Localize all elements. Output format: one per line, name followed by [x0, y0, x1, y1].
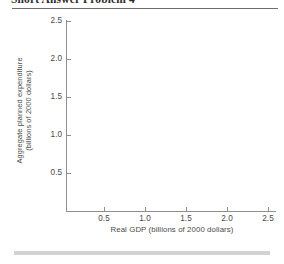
x-axis-tick-mark: [268, 207, 269, 211]
plot-area[interactable]: [67, 20, 276, 211]
y-axis-line: [66, 20, 67, 212]
x-axis-tick-label: 1.0: [130, 215, 160, 223]
header-divider: [12, 8, 278, 9]
y-axis-title-line-1: Aggregate planned expenditure: [15, 17, 24, 203]
x-axis-tick-label: 0.5: [89, 215, 119, 223]
y-axis-tick-mark: [67, 21, 71, 22]
x-axis-tick-label: 1.5: [171, 215, 201, 223]
y-axis-tick-label: 2.0: [36, 55, 62, 63]
y-axis-tick-label: 2.5: [36, 17, 62, 25]
y-axis-tick-label: 1.0: [36, 131, 62, 139]
x-axis-tick-mark: [104, 207, 105, 211]
y-axis-tick-mark: [67, 97, 71, 98]
x-axis-tick-label: 2.0: [212, 215, 242, 223]
x-axis-tick-mark: [227, 207, 228, 211]
x-axis-line: [66, 211, 276, 212]
footer-separator-bar: [14, 251, 270, 255]
document-header: Short Answer Problem 4: [0, 0, 284, 11]
x-axis-tick-mark: [145, 207, 146, 211]
x-axis-tick-label: 2.5: [253, 215, 283, 223]
y-axis-tick-label: 1.5: [36, 93, 62, 101]
y-axis-tick-mark: [67, 173, 71, 174]
x-axis-tick-mark: [186, 207, 187, 211]
y-axis-tick-label: 0.5: [36, 169, 62, 177]
x-axis-title: Real GDP (billions of 2000 dollars): [66, 225, 278, 234]
y-axis-tick-mark: [67, 59, 71, 60]
chart-figure: Aggregate planned expenditure (billions …: [0, 11, 284, 247]
page-title: Short Answer Problem 4: [11, 0, 135, 5]
y-axis-title-line-2: (billions of 2000 dollars): [24, 17, 33, 203]
y-axis-tick-mark: [67, 135, 71, 136]
y-axis-title: Aggregate planned expenditure (billions …: [15, 17, 34, 203]
